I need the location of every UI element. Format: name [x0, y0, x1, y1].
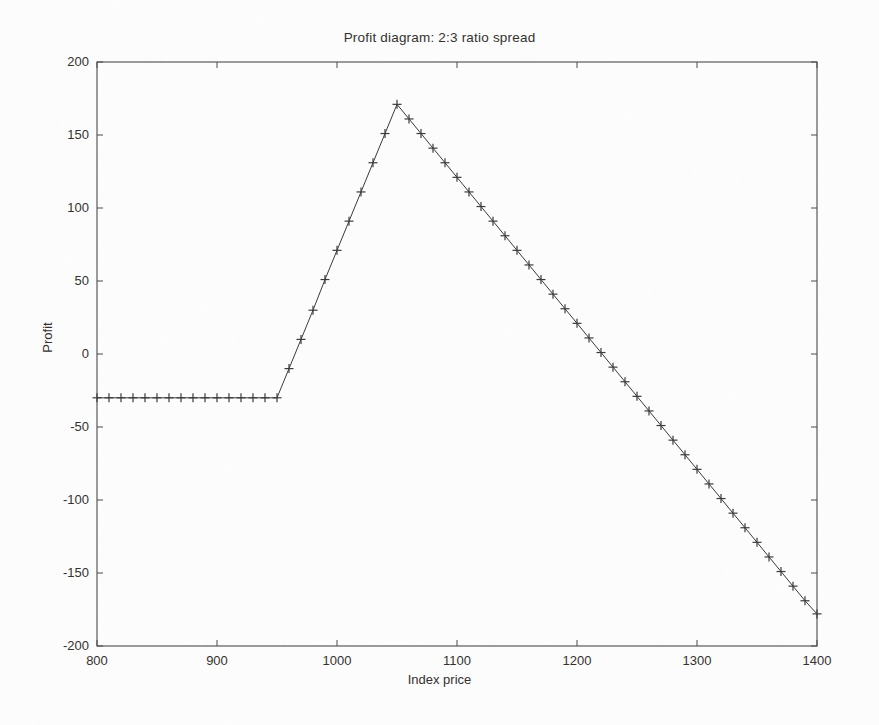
y-tick-label: 100 — [29, 200, 89, 215]
y-tick-label: -50 — [29, 419, 89, 434]
y-axis-ticks — [97, 62, 817, 646]
chart-figure: Profit diagram: 2:3 ratio spread -200-15… — [0, 0, 879, 725]
y-tick-label: 0 — [29, 346, 89, 361]
y-tick-label: -150 — [29, 565, 89, 580]
y-axis-label: Profit — [40, 278, 55, 398]
y-tick-label: 50 — [29, 273, 89, 288]
y-tick-label: 150 — [29, 127, 89, 142]
y-tick-label: -200 — [29, 638, 89, 653]
x-tick-label: 1100 — [422, 653, 492, 668]
x-tick-label: 1000 — [302, 653, 372, 668]
x-tick-label: 900 — [182, 653, 252, 668]
x-tick-label: 1300 — [662, 653, 732, 668]
y-tick-label: -100 — [29, 492, 89, 507]
x-axis-label: Index price — [0, 672, 879, 687]
x-axis-ticks — [97, 62, 817, 646]
plot-area — [0, 0, 879, 725]
x-tick-label: 1200 — [542, 653, 612, 668]
x-tick-label: 800 — [62, 653, 132, 668]
axes-frame — [97, 62, 817, 646]
y-tick-label: 200 — [29, 54, 89, 69]
profit-markers — [93, 100, 822, 619]
x-tick-label: 1400 — [782, 653, 852, 668]
